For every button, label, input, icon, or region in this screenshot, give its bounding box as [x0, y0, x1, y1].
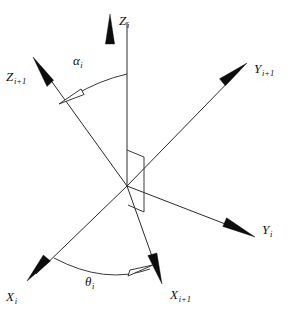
- z-i-arrowhead: [105, 14, 114, 44]
- y-i-arrowhead: [223, 218, 255, 237]
- axis-label-x-i: Xi: [6, 290, 17, 303]
- axis-label-x-i-plus-1: Xi+1: [170, 288, 191, 301]
- axis-label-x-i-plus-1-subscript: i+1: [179, 294, 191, 304]
- axis-label-z-i-plus-1-subscript: i+1: [14, 76, 26, 86]
- axis-lines-group: [36, 22, 246, 276]
- z-i-plus-1-arrowhead: [33, 57, 54, 87]
- angle-label-theta-subscript: i: [92, 281, 94, 291]
- axis-label-y-i: Yi: [262, 223, 272, 236]
- axis-label-y-i-plus-1: Yi+1: [254, 62, 274, 75]
- angle-label-alpha-i: αi: [73, 54, 82, 67]
- coordinate-frame-figure: Zi Zi+1 Yi+1 Yi Xi Xi+1 αi θi: [0, 0, 294, 320]
- axis-label-y-i-base: Y: [262, 222, 269, 237]
- axis-label-y-i-plus-1-subscript: i+1: [262, 68, 274, 78]
- x-i-arrowhead: [27, 255, 51, 281]
- axis-label-y-i-plus-1-base: Y: [254, 61, 261, 76]
- axis-label-x-i-subscript: i: [15, 296, 17, 306]
- alpha-angle-group: [59, 74, 127, 104]
- axis-label-y-i-subscript: i: [270, 229, 272, 239]
- theta-angle-group: [54, 258, 153, 276]
- z-i-plus-1-axis-line: [42, 68, 127, 186]
- axis-label-x-i-base: X: [6, 289, 14, 304]
- axis-label-z-i: Zi: [119, 14, 129, 27]
- theta-arc-arrowhead: [128, 265, 153, 276]
- axis-label-z-i-subscript: i: [127, 20, 129, 30]
- angle-label-alpha-symbol: α: [73, 53, 80, 68]
- axis-arrowheads-group: [27, 14, 255, 284]
- plane-marker-outline: [127, 150, 144, 212]
- axis-label-z-i-base: Z: [119, 13, 126, 28]
- axis-label-z-i-plus-1-base: Z: [6, 69, 13, 84]
- diagram-canvas: [0, 0, 294, 320]
- y-i-plus-1-arrowhead: [220, 63, 248, 86]
- angle-label-theta-i: θi: [85, 275, 94, 288]
- angle-label-theta-symbol: θ: [85, 274, 91, 289]
- right-angle-plane-marker: [127, 150, 144, 212]
- axis-label-z-i-plus-1: Zi+1: [6, 70, 26, 83]
- angle-label-alpha-subscript: i: [80, 60, 82, 70]
- axis-label-x-i-plus-1-base: X: [170, 287, 178, 302]
- x-i-plus-1-arrowhead: [148, 253, 162, 284]
